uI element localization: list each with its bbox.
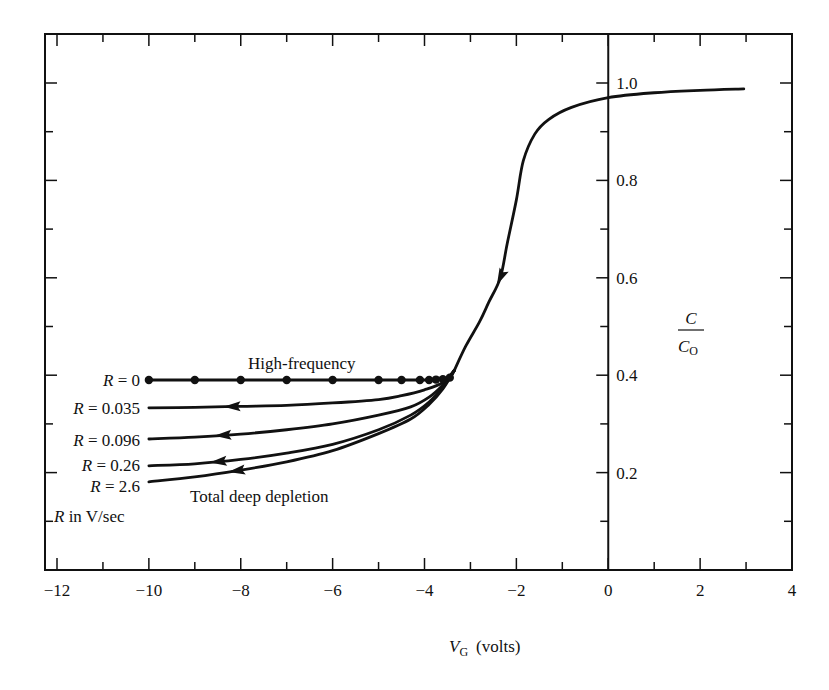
y-tick-label: 0.2	[616, 464, 637, 483]
svg-text:C: C	[685, 309, 697, 328]
data-point-marker	[397, 376, 405, 384]
x-tick-label: −6	[324, 581, 342, 600]
frame-rect	[45, 34, 792, 570]
x-tick-label: −10	[136, 581, 163, 600]
label-r-026: R = 0.26	[81, 456, 140, 475]
y-axis-label: C CO	[678, 309, 704, 358]
data-curves	[149, 89, 744, 482]
x-tick-label: −4	[415, 581, 434, 600]
y-tick-label: 0.6	[616, 269, 637, 288]
axis-ticks	[45, 34, 792, 570]
y-tick-label: 0.8	[616, 171, 637, 190]
label-r-26: R = 2.6	[89, 477, 140, 496]
x-tick-label: 2	[696, 581, 705, 600]
svg-text:CO: CO	[678, 337, 698, 358]
data-point-marker	[191, 376, 199, 384]
curve-accumulation-depletion-common-	[454, 89, 743, 370]
plot-frame	[45, 34, 792, 570]
annotation-total-deep-depletion: Total deep depletion	[190, 487, 329, 506]
data-point-marker	[282, 376, 290, 384]
annotation-high-frequency: High-frequency	[248, 354, 356, 373]
x-axis-label: VG(volts)	[449, 637, 520, 659]
x-tick-label: 0	[604, 581, 613, 600]
data-point-marker	[425, 376, 433, 384]
data-point-marker	[237, 376, 245, 384]
x-tick-label: 4	[788, 581, 797, 600]
y-tick-label: 0.4	[616, 366, 638, 385]
label-r0: R = 0	[102, 371, 140, 390]
data-point-marker	[416, 376, 424, 384]
label-r-units: R in V/sec	[53, 507, 125, 526]
data-point-marker	[328, 376, 336, 384]
data-point-marker	[374, 376, 382, 384]
cv-chart: −12−10−8−6−4−20240.20.40.60.81.0 R = 0 R…	[0, 0, 829, 690]
direction-arrow-icon	[492, 268, 508, 288]
x-tick-label: −2	[507, 581, 525, 600]
curve-r-0-26	[149, 370, 454, 465]
label-r-0035: R = 0.035	[72, 399, 140, 418]
x-tick-label: −8	[232, 581, 250, 600]
svg-text:VG(volts): VG(volts)	[449, 637, 520, 659]
label-r-0096: R = 0.096	[72, 431, 140, 450]
data-point-marker	[145, 376, 153, 384]
y-tick-label: 1.0	[616, 74, 637, 93]
data-point-marker	[446, 373, 454, 381]
x-tick-label: −12	[44, 581, 71, 600]
